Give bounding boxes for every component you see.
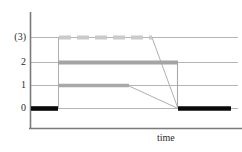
y-tick-label-1: 1 [4,80,26,90]
timing-diagram-chart: (3) 2 1 0 time [0,0,242,152]
chart-canvas [0,0,242,152]
y-tick-label-2: 2 [4,57,26,67]
y-tick-label-3: (3) [4,32,26,42]
y-tick-label-0: 0 [4,103,26,113]
x-axis-title: time [157,132,175,143]
